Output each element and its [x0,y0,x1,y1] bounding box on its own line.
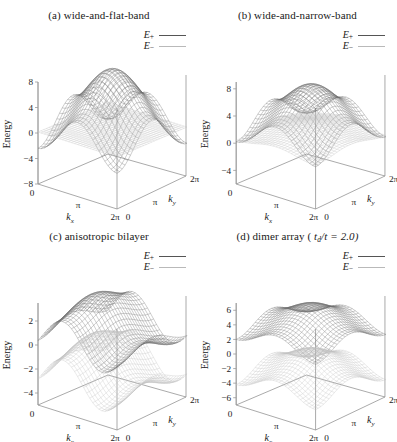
panel-d-zaxis-label: ky [367,414,375,428]
panel-b-xtick-1: π [274,200,279,210]
panel-c-ztick-0: 0 [126,433,131,442]
y-tick-label: −4 [23,388,33,398]
panel-c-title-text: anisotropic bilayer [65,230,149,242]
panel-c-xtick-1: π [76,421,81,431]
panel-c-xtick-0: 0 [30,409,35,419]
panel-c-svg: 20−2−4 0 π 2π 0 π 2π kx ky Energy [0,245,198,441]
panel-c-title: (c) anisotropic bilayer [0,230,198,242]
y-tick-label: 4 [227,320,232,330]
y-tick-label: 8 [28,77,33,87]
y-tick-label: 0 [28,128,33,138]
panel-c-zaxis-label: ky [168,414,176,428]
panel-c-yticks: 20−2−4 [23,316,38,398]
y-tick-label: −4 [221,166,231,176]
y-tick-label: 4 [28,103,33,113]
y-tick-label: 0 [227,349,232,359]
panel-a: (a) wide-and-flat-band E+ E− [0,0,198,221]
panel-a-zaxis-label: ky [168,193,176,207]
panel-b-xtick-0: 0 [228,188,233,198]
panel-d-ztick-0: 0 [324,433,329,442]
panel-b-title-text: wide-and-narrow-band [254,9,357,21]
panel-a-title: (a) wide-and-flat-band [0,9,198,21]
panel-d-title: (d) dimer array ( td/t = 2.0) [198,230,397,244]
panel-d: (d) dimer array ( td/t = 2.0) E+ E− [198,221,397,442]
panel-d-xtick-2: 2π [309,433,319,442]
panel-b-plot: 840−4 0 π 2π 0 π 2π kx ky Energy [198,24,397,220]
y-tick-label: −2 [221,364,231,374]
panel-b-surface-eplus [236,84,386,167]
panel-a-ztick-1: π [153,197,158,207]
panel-c-label: (c) [49,230,62,242]
panel-c: (c) anisotropic bilayer E+ E− [0,221,198,442]
panel-c-xaxis-label: kx [66,432,74,442]
panel-a-plot: 840−4−8 0 π 2π 0 π 2π kx ky Energy [0,24,198,220]
panel-a-xtick-1: π [76,200,81,210]
panel-d-svg: 6420−2−4−6 0 π 2π 0 π 2π kx ky Energy [198,245,397,441]
y-tick-label: −6 [221,393,231,403]
panel-d-xaxis-label: kx [265,432,273,442]
y-tick-label: −4 [221,378,231,388]
panel-a-title-text: wide-and-flat-band [64,9,150,21]
y-tick-label: −2 [23,364,33,374]
panel-d-yticks: 6420−2−4−6 [221,306,236,403]
y-tick-label: −4 [23,154,33,164]
panel-b-yaxis-label: Energy [199,120,210,149]
panel-d-ztick-1: π [351,418,356,428]
panel-b: (b) wide-and-narrow-band E+ E− [198,0,397,221]
panel-b-label: (b) [238,9,251,21]
panel-a-svg: 840−4−8 0 π 2π 0 π 2π kx ky Energy [0,24,198,220]
panel-a-xtick-0: 0 [30,188,35,198]
panel-d-xtick-0: 0 [228,409,233,419]
panel-a-yticks: 840−4−8 [23,77,38,189]
panel-d-ztick-2: 2π [389,395,397,405]
panel-c-ztick-1: π [153,418,158,428]
panel-d-xtick-1: π [274,421,279,431]
panel-d-surface-eplus [236,302,386,364]
panel-c-plot: 20−2−4 0 π 2π 0 π 2π kx ky Energy [0,245,198,441]
panel-b-yticks: 840−4 [221,84,236,176]
panel-c-yaxis-label: Energy [1,341,12,370]
y-tick-label: 0 [227,138,232,148]
panel-b-svg: 840−4 0 π 2π 0 π 2π kx ky Energy [198,24,397,220]
panel-d-axes [236,296,385,430]
panel-d-title-text: dimer array ( [253,230,312,242]
panel-d-plot: 6420−2−4−6 0 π 2π 0 π 2π kx ky Energy [198,245,397,441]
y-tick-label: 0 [28,340,33,350]
y-tick-label: 4 [227,111,232,121]
panel-c-xtick-2: 2π [110,433,120,442]
y-tick-label: 2 [28,316,33,326]
panel-d-yaxis-label: Energy [199,341,210,370]
y-tick-label: 6 [227,306,232,316]
panel-a-label: (a) [48,9,61,21]
panel-c-axes [38,296,186,430]
panel-d-param-rest: /t = 2.0) [321,230,358,242]
panel-b-ztick-2: 2π [389,174,397,184]
panel-d-label: (d) [237,230,250,242]
y-tick-label: 8 [227,84,232,94]
panel-b-ztick-1: π [351,197,356,207]
panel-b-title: (b) wide-and-narrow-band [198,9,397,21]
figure-panel-grid: (a) wide-and-flat-band E+ E− [0,0,397,442]
panel-d-surface-eminus [236,348,386,410]
panel-b-zaxis-label: ky [367,193,375,207]
y-tick-label: 2 [227,335,232,345]
panel-a-yaxis-label: Energy [1,120,12,149]
